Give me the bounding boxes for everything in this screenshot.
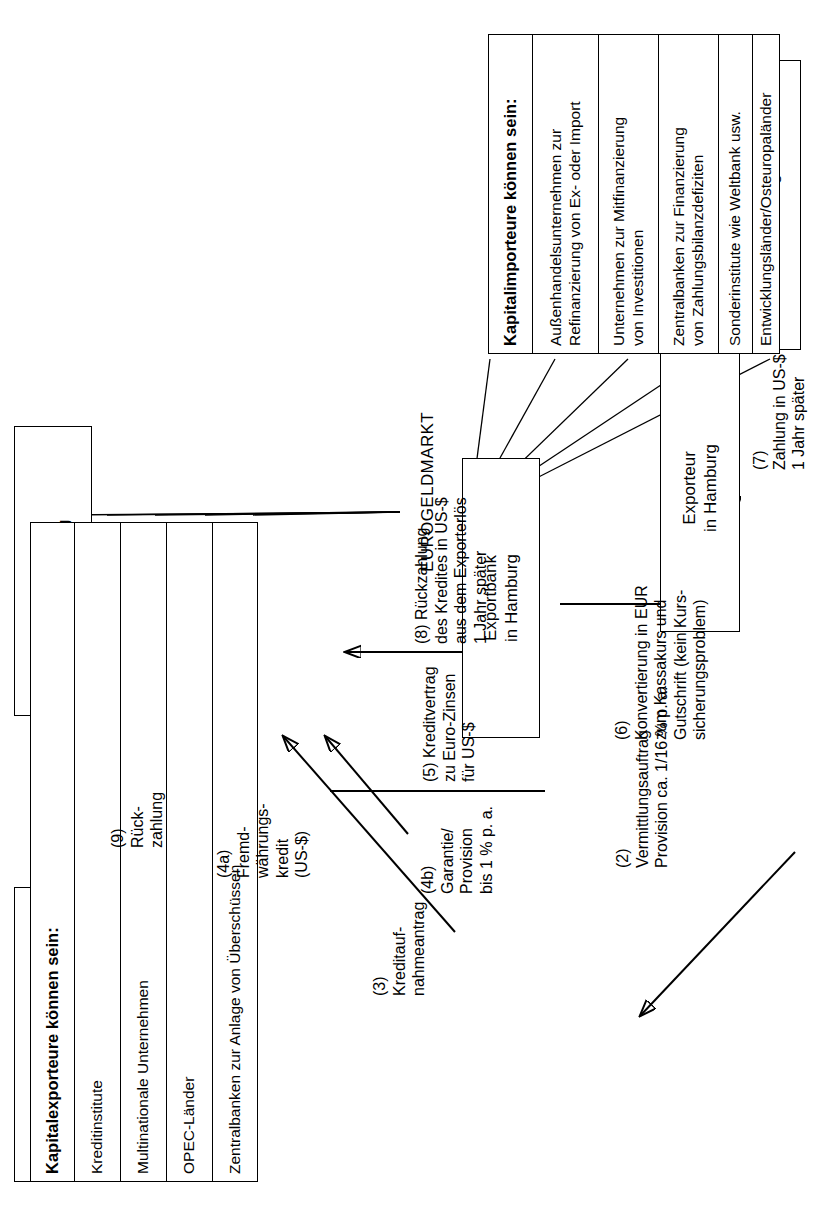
list-item: Zentralbanken zur Finanzierung von Zahlu… [659, 35, 719, 353]
list-item: Sonderinstitute wie Weltbank usw. [719, 35, 753, 353]
arrow-step4b [325, 736, 408, 834]
label-step6: (6) Konvertierung in EUR zum Kassakurs u… [612, 585, 710, 740]
label-step4a: (4a) Fremd- währungs- kredit (US-$) [214, 803, 312, 878]
diagram-canvas: Euro-Bank B in London Euro-Bank A in Lux… [0, 0, 816, 1212]
label-step8: (8) Rückzahlung des Kredites in US-$ aus… [412, 497, 490, 644]
kapitalexporteure-heading: Kapitalexporteure können sein: [31, 523, 75, 1181]
label-step3: (3) Kreditauf- nahmeantrag [370, 902, 429, 996]
label-step5: (5) Kreditvertrag zu Euro-Zinsen für US-… [420, 666, 479, 782]
kapitalimporteure-heading: Kapitalimporteure können sein: [489, 35, 533, 353]
list-item: Kreditinstitute [75, 523, 121, 1181]
kapitalimporteure-box-main[interactable]: Kapitalimporteure können sein: Außenhand… [488, 34, 780, 354]
box-exporteur-label: Exporteur in Hamburg [679, 444, 722, 532]
list-item: OPEC-Länder [167, 523, 213, 1181]
label-step7: (7) Zahlung in US-$ 1 Jahr später [750, 354, 809, 470]
label-step4b: (4b) Garantie/ Provision bis 1 % p. a. [418, 806, 496, 894]
list-item: Multinationale Unternehmen [121, 523, 167, 1181]
list-item: Unternehmen zur Mitfinanzierung von Inve… [599, 35, 659, 353]
label-step9: (9) Rück- zahlung [108, 792, 167, 848]
list-item: Entwicklungsländer/Osteuropaländer [753, 35, 779, 353]
list-item: Außenhandelsunternehmen zur Refinanzieru… [533, 35, 599, 353]
fan-kapitalexporteure [62, 512, 400, 515]
